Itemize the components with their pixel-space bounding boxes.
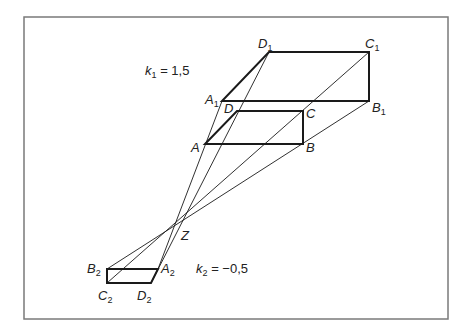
label-z: Z (180, 228, 190, 243)
label-a: A (190, 140, 200, 155)
label-a1: A1 (204, 92, 219, 109)
projection-rays (107, 52, 369, 283)
label-b1: B1 (372, 100, 386, 117)
rectangle-a1b1c1d1 (222, 52, 369, 101)
label-k1: k1 = 1,5 (145, 63, 189, 80)
label-a2: A2 (160, 261, 175, 278)
label-d1: D1 (258, 36, 272, 53)
homothety-diagram: D1 C1 A1 B1 D C A B Z B2 A2 C2 D2 k1 = 1… (0, 0, 469, 333)
ray-b (107, 101, 369, 269)
label-c: C (306, 106, 316, 121)
label-d: D (224, 101, 233, 116)
label-b: B (306, 140, 315, 155)
ray-c (107, 52, 369, 283)
ray-a (158, 101, 222, 269)
rectangle-abcd (205, 111, 303, 144)
ray-d (151, 52, 269, 283)
diagram-canvas: D1 C1 A1 B1 D C A B Z B2 A2 C2 D2 k1 = 1… (0, 0, 469, 333)
label-c2: C2 (98, 288, 112, 305)
label-k2: k2 = −0,5 (196, 261, 248, 278)
label-d2: D2 (137, 288, 151, 305)
label-c1: C1 (365, 36, 379, 53)
label-b2: B2 (87, 261, 101, 278)
